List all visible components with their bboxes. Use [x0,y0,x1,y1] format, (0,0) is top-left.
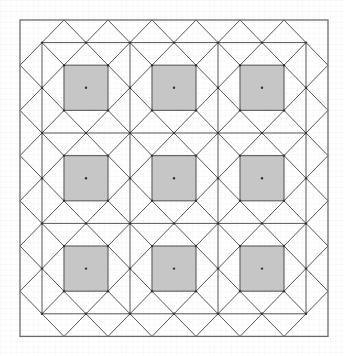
lattice-node [283,109,285,111]
lattice-node [41,267,43,269]
lattice-node [217,177,219,179]
lattice-node [85,222,87,224]
lattice-node [41,222,43,224]
lattice-node [283,64,285,66]
lattice-node [151,109,153,111]
lattice-node [63,154,65,156]
lattice-node [129,41,131,43]
lattice-node [129,177,131,179]
lattice-node [239,290,241,292]
lattice-node [305,87,307,89]
lattice-node [217,222,219,224]
lattice-node [195,290,197,292]
lattice-node [85,267,87,269]
lattice-node [261,87,263,89]
lattice-node [151,245,153,247]
lattice-node [217,87,219,89]
lattice-node [129,222,131,224]
lattice-node [63,64,65,66]
lattice-node [107,109,109,111]
lattice-node [63,290,65,292]
lattice-node [305,267,307,269]
lattice-node [41,87,43,89]
lattice-node [85,177,87,179]
lattice-node [41,313,43,315]
lattice-node [173,222,175,224]
quilt-diagram [0,0,344,356]
lattice-node [283,245,285,247]
lattice-node [217,41,219,43]
lattice-node [261,313,263,315]
lattice-node [217,132,219,134]
lattice-node [107,154,109,156]
lattice-node [41,132,43,134]
lattice-node [305,132,307,134]
lattice-node [305,177,307,179]
lattice-node [261,41,263,43]
lattice-node [283,290,285,292]
lattice-node [261,177,263,179]
lattice-node [239,154,241,156]
lattice-node [173,41,175,43]
lattice-node [63,109,65,111]
lattice-node [107,64,109,66]
lattice-node [107,290,109,292]
lattice-node [129,313,131,315]
lattice-node [217,313,219,315]
lattice-node [239,200,241,202]
lattice-node [173,267,175,269]
lattice-node [195,154,197,156]
lattice-node [305,313,307,315]
lattice-node [195,64,197,66]
lattice-node [85,132,87,134]
lattice-node [195,200,197,202]
lattice-node [85,41,87,43]
lattice-node [173,313,175,315]
lattice-node [151,290,153,292]
lattice-node [41,41,43,43]
lattice-node [107,200,109,202]
lattice-node [129,267,131,269]
lattice-node [151,64,153,66]
lattice-node [305,222,307,224]
lattice-node [129,132,131,134]
lattice-node [261,222,263,224]
lattice-node [63,200,65,202]
lattice-node [63,245,65,247]
lattice-node [85,87,87,89]
lattice-node [107,245,109,247]
lattice-node [217,267,219,269]
lattice-node [261,132,263,134]
lattice-node [261,267,263,269]
lattice-node [173,87,175,89]
lattice-node [283,200,285,202]
lattice-node [85,313,87,315]
lattice-node [239,109,241,111]
lattice-node [305,41,307,43]
lattice-node [41,177,43,179]
lattice-node [283,154,285,156]
lattice-node [151,200,153,202]
lattice-node [239,245,241,247]
lattice-node [239,64,241,66]
lattice-node [195,109,197,111]
lattice-node [129,87,131,89]
lattice-node [195,245,197,247]
lattice-node [151,154,153,156]
lattice-node [173,177,175,179]
lattice-node [173,132,175,134]
